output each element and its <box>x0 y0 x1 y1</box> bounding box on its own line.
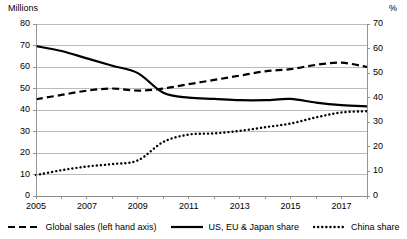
legend-swatch-dotted-icon <box>313 223 347 231</box>
x-axis-tick-label: 2013 <box>220 202 260 211</box>
x-axis-tick-label: 2009 <box>118 202 158 211</box>
data-series-layer <box>36 46 367 175</box>
legend-label: US, EU & Japan share <box>208 222 299 232</box>
y-axis-right-tick-label: 60 <box>373 44 395 53</box>
x-axis-tick-label: 2007 <box>67 202 107 211</box>
y-axis-left-tick-label: 30 <box>8 127 30 136</box>
y-axis-right-tick-label: 0 <box>373 191 395 200</box>
series-line-3 <box>36 111 367 175</box>
y-axis-right-tick-label: 40 <box>373 93 395 102</box>
y-axis-right-tick-label: 70 <box>373 19 395 28</box>
series-line-2 <box>36 46 367 106</box>
x-axis-tick-label: 2017 <box>322 202 362 211</box>
y-axis-left-tick-label: 10 <box>8 170 30 179</box>
y-axis-left-tick-label: 80 <box>8 19 30 28</box>
legend-label: China share <box>351 222 400 232</box>
x-axis-tick-label: 2011 <box>169 202 209 211</box>
x-axis-tick-label: 2015 <box>271 202 311 211</box>
chart-container: Millions % 80706050403020100 70605040302… <box>0 0 407 239</box>
x-axis-tick-label: 2005 <box>16 202 56 211</box>
y-axis-left-tick-label: 0 <box>8 191 30 200</box>
legend-swatch-solid-icon <box>170 223 204 231</box>
legend-item-2[interactable]: US, EU & Japan share <box>170 222 299 232</box>
gridlines <box>36 24 367 196</box>
y-axis-right-tick-label: 20 <box>373 142 395 151</box>
series-line-1 <box>36 63 367 100</box>
y-axis-left-tick-label: 40 <box>8 105 30 114</box>
y-axis-right-tick-label: 50 <box>373 68 395 77</box>
chart-legend: Global sales (left hand axis)US, EU & Ja… <box>0 219 407 235</box>
y-axis-right-ticks <box>367 24 370 196</box>
legend-label: Global sales (left hand axis) <box>45 222 156 232</box>
legend-swatch-dashed-icon <box>7 223 41 231</box>
y-axis-left-tick-label: 20 <box>8 148 30 157</box>
y-axis-right-tick-label: 10 <box>373 166 395 175</box>
legend-item-1[interactable]: Global sales (left hand axis) <box>7 222 156 232</box>
y-axis-left-tick-label: 70 <box>8 41 30 50</box>
legend-item-3[interactable]: China share <box>313 222 400 232</box>
y-axis-left-tick-label: 50 <box>8 84 30 93</box>
y-axis-right-tick-label: 30 <box>373 117 395 126</box>
y-axis-left-tick-label: 60 <box>8 62 30 71</box>
